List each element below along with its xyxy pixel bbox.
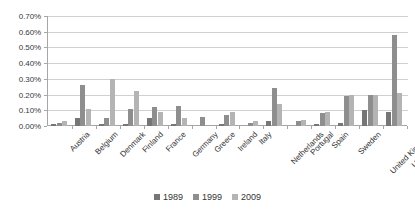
bar-greece-1999	[200, 117, 205, 126]
legend-swatch-icon	[232, 194, 238, 200]
bar-denmark-2009	[110, 79, 115, 126]
bar-group	[120, 16, 144, 126]
bar-finland-1999	[128, 109, 133, 126]
x-tick-mark	[407, 126, 408, 129]
bar-group	[359, 16, 383, 126]
bar-ireland-2009	[230, 112, 235, 126]
x-tick-mark	[120, 126, 121, 129]
y-tick-label: 0.70%	[19, 12, 41, 21]
x-tick-mark	[335, 126, 336, 129]
x-tick-label-united-kingdom: United Kingdom	[389, 130, 415, 176]
x-tick-label-belgium: Belgium	[93, 130, 119, 156]
chart-legend: 198919992009	[0, 192, 415, 202]
bar-france-2009	[158, 112, 163, 126]
legend-item-1989[interactable]: 1989	[154, 192, 183, 202]
legend-label: 2009	[241, 192, 261, 202]
bar-group	[48, 16, 72, 126]
bar-france-1989	[147, 118, 152, 126]
bar-france-1999	[152, 107, 157, 126]
bar-germany-1999	[176, 106, 181, 126]
bar-group	[168, 16, 192, 126]
bar-denmark-1999	[104, 118, 109, 126]
x-tick-label-spain: Spain	[330, 130, 350, 150]
bar-group	[192, 16, 216, 126]
x-tick-mark	[96, 126, 97, 129]
y-tick-label: 0.40%	[19, 59, 41, 68]
legend-label: 1989	[163, 192, 183, 202]
bar-group	[383, 16, 407, 126]
bar-united-kingdom-2009	[373, 95, 378, 126]
y-tick-label: 0.10%	[19, 106, 41, 115]
x-tick-label-sweden: Sweden	[357, 130, 383, 156]
bar-ireland-1999	[224, 115, 229, 126]
bar-group	[216, 16, 240, 126]
bar-group	[335, 16, 359, 126]
x-tick-mark	[192, 126, 193, 129]
x-tick-mark	[72, 126, 73, 129]
x-tick-mark	[168, 126, 169, 129]
bar-group	[144, 16, 168, 126]
bar-belgium-2009	[86, 109, 91, 126]
bar-united-states-1999	[392, 35, 397, 126]
bar-group	[239, 16, 263, 126]
x-tick-label-italy: Italy	[257, 130, 273, 146]
bars-layer	[48, 16, 407, 126]
bar-belgium-1999	[80, 85, 85, 126]
bar-spain-1999	[320, 113, 325, 126]
bar-sweden-2009	[349, 95, 354, 126]
x-tick-label-austria: Austria	[68, 130, 91, 153]
y-tick-label: 0.20%	[19, 90, 41, 99]
bar-chart: 0.70%0.60%0.50%0.40%0.30%0.20%0.10%0.00%…	[0, 0, 415, 216]
y-axis: 0.70%0.60%0.50%0.40%0.30%0.20%0.10%0.00%	[0, 16, 45, 126]
bar-united-states-2009	[397, 93, 402, 126]
x-tick-label-ireland: Ireland	[236, 130, 259, 153]
legend-item-2009[interactable]: 2009	[232, 192, 261, 202]
bar-finland-2009	[134, 91, 139, 126]
x-tick-mark	[383, 126, 384, 129]
bar-united-kingdom-1999	[368, 95, 373, 126]
x-tick-mark	[287, 126, 288, 129]
x-tick-mark	[311, 126, 312, 129]
x-tick-mark	[359, 126, 360, 129]
bar-united-kingdom-1989	[362, 110, 367, 126]
bar-netherlands-1999	[272, 88, 277, 126]
y-tick-label: 0.30%	[19, 74, 41, 83]
legend-swatch-icon	[193, 194, 199, 200]
x-axis: AustriaBelgiumDenmarkFinlandFranceGerman…	[0, 126, 415, 186]
x-tick-mark	[216, 126, 217, 129]
y-tick-label: 0.60%	[19, 27, 41, 36]
bar-netherlands-2009	[277, 104, 282, 126]
legend-swatch-icon	[154, 194, 160, 200]
bar-group	[287, 16, 311, 126]
x-tick-mark	[263, 126, 264, 129]
bar-sweden-1999	[344, 96, 349, 126]
bar-group	[311, 16, 335, 126]
x-tick-label-france: France	[164, 130, 188, 154]
bar-group	[96, 16, 120, 126]
bar-spain-2009	[325, 112, 330, 126]
x-tick-mark	[144, 126, 145, 129]
bar-united-states-1989	[386, 112, 391, 126]
x-tick-mark	[239, 126, 240, 129]
bar-group	[263, 16, 287, 126]
bar-germany-2009	[182, 118, 187, 126]
y-tick-label: 0.50%	[19, 43, 41, 52]
bar-belgium-1989	[75, 118, 80, 126]
legend-item-1999[interactable]: 1999	[193, 192, 222, 202]
legend-label: 1999	[202, 192, 222, 202]
bar-group	[72, 16, 96, 126]
